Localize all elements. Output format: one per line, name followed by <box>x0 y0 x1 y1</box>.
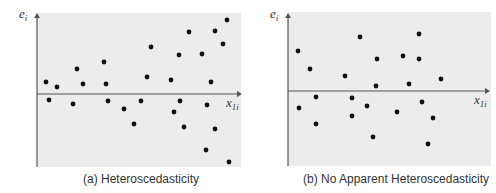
caption-no-heteroscedasticity: (b) No Apparent Heteroscedasticity <box>303 172 489 186</box>
data-point <box>47 98 52 103</box>
data-point <box>350 96 355 101</box>
data-point <box>139 99 144 104</box>
data-point <box>204 148 209 153</box>
data-point <box>106 99 111 104</box>
scatter-panel-a: eix1i <box>19 6 242 167</box>
data-point <box>358 35 363 40</box>
data-point <box>417 32 422 37</box>
data-point <box>187 30 192 35</box>
data-point <box>365 104 370 109</box>
data-point <box>221 42 226 47</box>
data-point <box>297 106 302 111</box>
data-point <box>205 103 210 108</box>
data-point <box>145 75 150 80</box>
data-point <box>371 135 376 140</box>
data-point <box>314 122 319 127</box>
y-axis-label: ei <box>270 6 279 23</box>
data-point <box>178 99 183 104</box>
scatter-plots: eix1ieix1i <box>0 0 496 193</box>
data-point <box>227 160 232 165</box>
data-point <box>122 107 127 112</box>
data-point <box>213 127 218 132</box>
data-point <box>132 122 137 127</box>
data-point <box>172 110 177 115</box>
data-point <box>209 80 214 85</box>
data-point <box>374 84 379 89</box>
data-point <box>350 114 355 119</box>
data-point <box>71 102 76 107</box>
data-point <box>177 53 182 58</box>
data-point <box>439 77 444 82</box>
data-point <box>213 29 218 34</box>
data-point <box>395 110 400 115</box>
data-point <box>55 85 60 90</box>
data-point <box>407 82 412 87</box>
y-axis-label: ei <box>19 6 28 23</box>
data-point <box>375 57 380 62</box>
data-point <box>102 60 107 65</box>
data-point <box>149 45 154 50</box>
data-point <box>182 125 187 130</box>
data-point <box>417 57 422 62</box>
data-point <box>296 49 301 54</box>
caption-heteroscedasticity: (a) Heteroscedasticity <box>83 172 199 186</box>
plot-background <box>37 13 241 167</box>
data-point <box>81 82 86 87</box>
data-point <box>431 116 436 121</box>
scatter-panel-b: eix1i <box>270 6 491 166</box>
data-point <box>308 67 313 72</box>
data-point <box>75 67 80 72</box>
plot-background <box>288 12 491 166</box>
data-point <box>200 52 205 57</box>
data-point <box>343 74 348 79</box>
data-point <box>104 82 109 87</box>
data-point <box>420 100 425 105</box>
data-point <box>44 80 49 85</box>
data-point <box>314 95 319 100</box>
data-point <box>426 142 431 147</box>
data-point <box>225 18 230 23</box>
data-point <box>401 54 406 59</box>
data-point <box>169 78 174 83</box>
